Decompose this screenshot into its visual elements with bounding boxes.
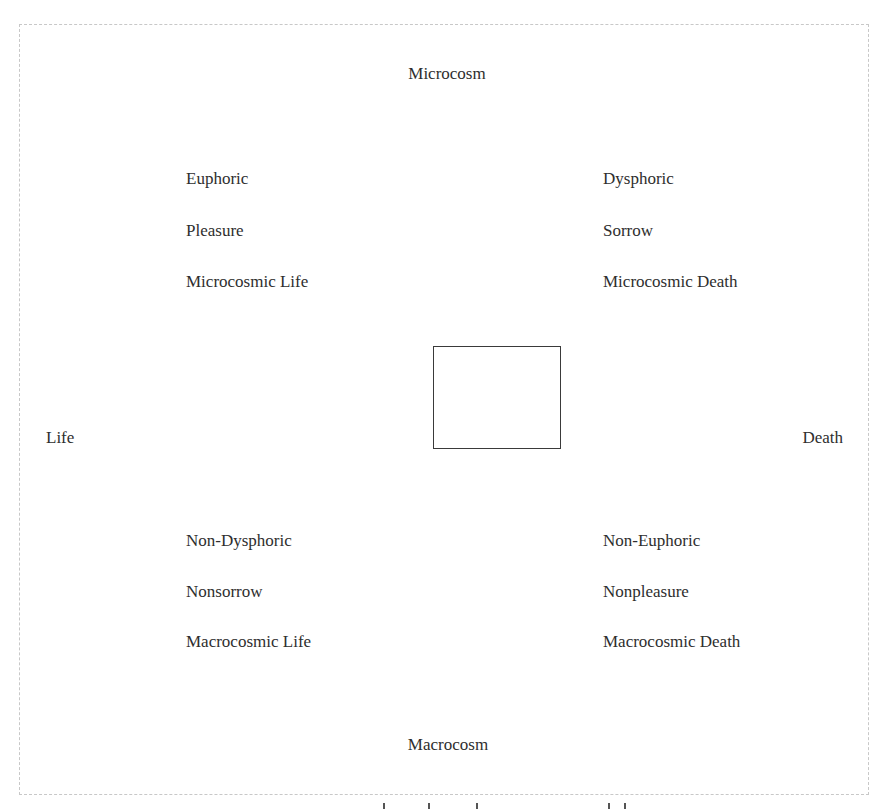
pole-top-label: Microcosm [408,64,485,84]
pole-left-label: Life [46,428,74,448]
bottom-right-term-1: Non-Euphoric [603,531,700,551]
top-right-term-3: Microcosmic Death [603,272,738,292]
bottom-right-term-3: Macrocosmic Death [603,632,740,652]
pole-bottom-label: Macrocosm [408,735,488,755]
pole-right-label: Death [802,428,843,448]
bottom-left-term-3: Macrocosmic Life [186,632,311,652]
bottom-right-term-2: Nonpleasure [603,582,689,602]
top-left-term-3: Microcosmic Life [186,272,308,292]
top-right-term-2: Sorrow [603,221,653,241]
clipped-caption [0,802,892,809]
top-right-term-1: Dysphoric [603,169,674,189]
top-left-term-1: Euphoric [186,169,248,189]
caption-ascender-fragments [606,803,636,809]
center-square [433,346,561,449]
top-left-term-2: Pleasure [186,221,244,241]
caption-ascender-fragments [380,803,520,809]
bottom-left-term-2: Nonsorrow [186,582,263,602]
bottom-left-term-1: Non-Dysphoric [186,531,292,551]
